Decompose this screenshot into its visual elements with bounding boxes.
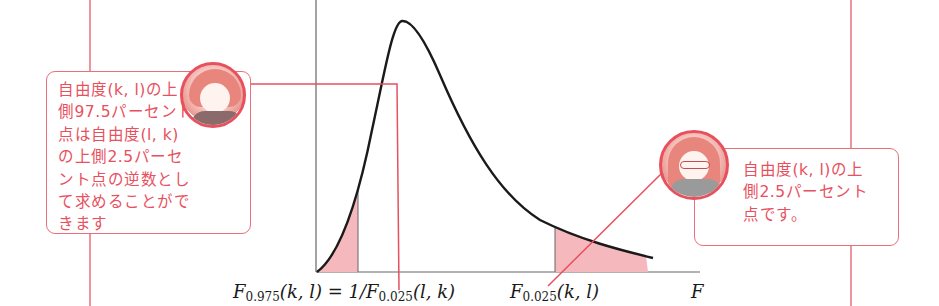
label-f: F — [510, 281, 523, 302]
character-avatar-right — [659, 130, 729, 200]
avatar-body — [670, 179, 722, 200]
x-axis-label: F — [691, 281, 704, 302]
avatar-glasses — [680, 161, 710, 169]
lower-critical-value-label: F0.975(k, l) = 1/F0.025(l, k) — [233, 281, 455, 304]
lower-tail-shade — [317, 190, 358, 272]
label-sub: 0.025 — [523, 290, 557, 304]
callout-line: ント点の逆数とし — [58, 169, 250, 191]
callout-line: 側2.5パーセント — [743, 181, 898, 203]
callout-line: の上側2.5パーセ — [58, 146, 250, 168]
callout-line: 自由度(k, l)の上 — [743, 159, 898, 181]
callout-line: 点です。 — [743, 204, 898, 226]
avatar-face — [200, 83, 230, 113]
label-args: (k, l) = 1/F — [280, 281, 379, 302]
label-args: (k, l) — [557, 281, 599, 302]
density-curve — [317, 21, 653, 272]
label-sub: 0.975 — [246, 290, 280, 304]
callout-line: きます — [58, 213, 250, 235]
callout-line: 点は自由度(l, k) — [58, 124, 250, 146]
f-distribution-diagram: 自由度(k, l)の上 側97.5パーセント 点は自由度(l, k) の上側2.… — [0, 0, 939, 306]
character-avatar-left — [180, 62, 246, 128]
callout-line: て求めることがで — [58, 191, 250, 213]
upper-critical-value-label: F0.025(k, l) — [510, 281, 599, 304]
label-f: F — [233, 281, 246, 302]
label-args2: (l, k) — [413, 281, 455, 302]
label-sub2: 0.025 — [379, 290, 413, 304]
